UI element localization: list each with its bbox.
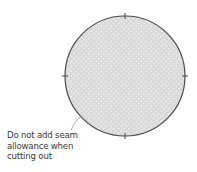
note-line-2: allowance when [7, 141, 87, 152]
note-line-1: Do not add seam [7, 130, 87, 141]
seam-allowance-note: Do not add seam allowance when cutting o… [7, 130, 87, 162]
note-line-3: cutting out [7, 151, 87, 162]
leader-line [71, 117, 80, 130]
circle-pattern-piece [65, 16, 185, 136]
